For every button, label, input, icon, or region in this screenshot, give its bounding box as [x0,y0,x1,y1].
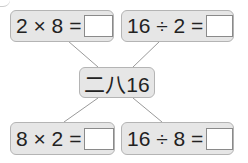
center-rhyme: 二八16 [79,67,155,98]
expression: 16 ÷ 2 = [127,14,203,38]
answer-box[interactable] [206,15,233,37]
answer-box[interactable] [84,15,113,37]
problem-top-right: 16 ÷ 2 = [121,10,234,42]
problem-bottom-right: 16 ÷ 8 = [121,122,234,155]
problem-bottom-left: 8 × 2 = [10,122,115,155]
problem-top-left: 2 × 8 = [10,10,114,42]
center-label: 二八16 [84,68,149,98]
expression: 2 × 8 = [16,14,81,38]
answer-box[interactable] [84,128,114,150]
expression: 16 ÷ 8 = [127,127,203,151]
expression: 8 × 2 = [16,127,81,151]
answer-box[interactable] [206,128,233,150]
